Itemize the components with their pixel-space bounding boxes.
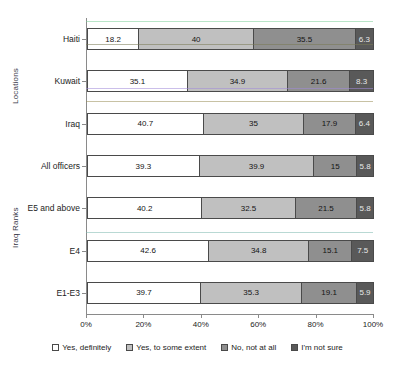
bar-e4: 42.634.815.17.5: [87, 240, 374, 262]
x-axis-line: [86, 314, 373, 315]
legend-item-3[interactable]: I'm not sure: [291, 343, 343, 352]
bar-segment-3: 6.4: [356, 113, 374, 135]
legend-item-2[interactable]: No, not at all: [221, 343, 276, 352]
bar-kuwait: 35.134.921.68.3: [87, 70, 374, 92]
bar-segment-0: 35.1: [87, 70, 188, 92]
bar-segment-2: 17.9: [304, 113, 355, 135]
legend-item-0[interactable]: Yes, definitely: [52, 343, 111, 352]
stacked-bar-chart: Locations Iraq Ranks HaitiKuwaitIraqAll …: [0, 0, 395, 365]
x-axis-label: 100%: [363, 320, 383, 329]
chart-legend: Yes, definitelyYes, to some extentNo, no…: [0, 343, 395, 352]
bar-iraq: 40.73517.96.4: [87, 113, 374, 135]
bar-segment-2: 21.6: [288, 70, 350, 92]
category-axis-labels: HaitiKuwaitIraqAll officersE5 and aboveE…: [0, 0, 86, 318]
bar-segment-3: 5.9: [357, 282, 374, 304]
bar-segment-2: 15: [314, 155, 357, 177]
x-axis-label: 40%: [193, 320, 209, 329]
legend-item-1[interactable]: Yes, to some extent: [126, 343, 206, 352]
y-axis-tick: [82, 251, 86, 252]
bar-all-officers: 39.339.9155.8: [87, 155, 374, 177]
bar-segment-1: 34.8: [209, 240, 309, 262]
category-label-e1-e3: E1-E3: [2, 288, 86, 298]
x-axis-label: 80%: [308, 320, 324, 329]
bar-segment-0: 42.6: [87, 240, 209, 262]
y-axis-tick: [82, 124, 86, 125]
bar-segment-0: 39.7: [87, 282, 201, 304]
bar-segment-1: 34.9: [188, 70, 288, 92]
bar-segment-3: 7.5: [352, 240, 374, 262]
legend-label: Yes, definitely: [62, 343, 111, 352]
legend-swatch-icon: [221, 344, 228, 351]
category-label-haiti: Haiti: [2, 34, 86, 44]
y-axis-tick: [82, 39, 86, 40]
legend-swatch-icon: [126, 344, 133, 351]
bar-segment-3: 5.8: [357, 155, 374, 177]
y-axis-tick: [82, 208, 86, 209]
bar-segment-3: 6.3: [356, 28, 374, 50]
bar-segment-1: 40: [139, 28, 254, 50]
y-axis-tick: [82, 81, 86, 82]
x-axis-tick: [143, 314, 144, 318]
legend-label: Yes, to some extent: [136, 343, 206, 352]
bar-segment-1: 35: [204, 113, 304, 135]
bar-segment-3: 5.8: [357, 197, 374, 219]
category-label-all-officers: All officers: [2, 161, 86, 171]
bar-segment-0: 39.3: [87, 155, 200, 177]
bar-segment-1: 35.3: [201, 282, 302, 304]
bar-segment-2: 19.1: [302, 282, 357, 304]
bar-segment-2: 21.5: [296, 197, 358, 219]
bar-segment-0: 40.2: [87, 197, 202, 219]
legend-swatch-icon: [52, 344, 59, 351]
bar-segment-2: 15.1: [309, 240, 352, 262]
x-axis-label: 20%: [135, 320, 151, 329]
bar-e1-e3: 39.735.319.15.9: [87, 282, 374, 304]
bar-segment-1: 32.5: [202, 197, 295, 219]
plot-area: 18.24035.56.335.134.921.68.340.73517.96.…: [86, 18, 373, 314]
x-axis-label: 60%: [250, 320, 266, 329]
y-axis-tick: [82, 166, 86, 167]
bar-segment-0: 40.7: [87, 113, 204, 135]
category-label-e5-and-above: E5 and above: [2, 203, 86, 213]
y-axis-tick: [82, 293, 86, 294]
category-label-e4: E4: [2, 246, 86, 256]
x-axis-tick: [86, 314, 87, 318]
x-axis-tick: [258, 314, 259, 318]
x-axis-label: 0%: [80, 320, 92, 329]
x-axis-tick: [373, 314, 374, 318]
legend-label: I'm not sure: [301, 343, 343, 352]
x-axis-tick: [316, 314, 317, 318]
legend-swatch-icon: [291, 344, 298, 351]
bar-segment-2: 35.5: [254, 28, 356, 50]
category-label-kuwait: Kuwait: [2, 76, 86, 86]
bar-segment-3: 8.3: [350, 70, 374, 92]
bar-haiti: 18.24035.56.3: [87, 28, 374, 50]
x-axis-tick: [201, 314, 202, 318]
legend-label: No, not at all: [231, 343, 276, 352]
category-label-iraq: Iraq: [2, 119, 86, 129]
bar-segment-0: 18.2: [87, 28, 139, 50]
bar-e5-and-above: 40.232.521.55.8: [87, 197, 374, 219]
bar-segment-1: 39.9: [200, 155, 315, 177]
